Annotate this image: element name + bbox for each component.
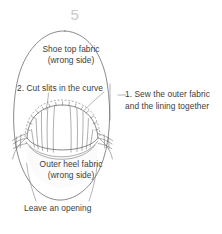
label-sew-outer-fabric-line1: 1. Sew the outer fabric — [125, 89, 220, 101]
left-fold-line — [20, 135, 21, 148]
label-leave-an-opening: Leave an opening — [24, 203, 116, 214]
label-outer-heel-fabric-line1: Outer heel fabric — [27, 159, 115, 170]
gather-line — [86, 119, 88, 149]
label-shoe-top-fabric-line2: (wrong side) — [27, 55, 115, 66]
gather-line — [70, 106, 71, 152]
diagram-svg — [0, 0, 222, 234]
label-sew-outer-fabric-line2: and the lining together — [125, 101, 220, 113]
slit-tick — [27, 130, 30, 131]
gather-line — [47, 108, 48, 152]
right-side-fold-group — [98, 134, 113, 160]
opening-upper-arc — [27, 105, 98, 138]
slit-tick-marks-group — [27, 102, 98, 131]
left-fold-line — [13, 139, 25, 159]
label-shoe-top-fabric: Shoe top fabric (wrong side) — [27, 44, 115, 66]
right-fold-line — [109, 137, 110, 149]
sewing-diagram-figure: 5 Shoe top fabric (wrong side) 2. Cut sl… — [0, 0, 222, 234]
leader-cut-slits-right — [84, 92, 105, 111]
step-number: 5 — [0, 6, 150, 23]
gather-line — [41, 112, 42, 151]
gather-line — [53, 106, 54, 152]
slit-tick — [36, 111, 39, 113]
label-shoe-top-fabric-line1: Shoe top fabric — [27, 44, 115, 55]
gathered-fabric-lines-group — [32, 106, 93, 152]
gather-line — [77, 108, 78, 152]
label-outer-heel-fabric-line2: (wrong side) — [27, 170, 115, 181]
gather-line — [82, 112, 83, 150]
label-sew-outer-fabric: 1. Sew the outer fabric and the lining t… — [125, 89, 220, 112]
label-cut-slits: 2. Cut slits in the curve — [17, 83, 127, 94]
gather-line — [32, 130, 35, 148]
slit-tick — [86, 111, 89, 113]
slit-tick — [81, 107, 83, 110]
gather-line — [90, 130, 93, 147]
right-fold-line — [104, 135, 105, 148]
gather-line — [36, 119, 38, 150]
label-outer-heel-fabric: Outer heel fabric (wrong side) — [27, 159, 115, 181]
slit-tick — [75, 104, 76, 107]
